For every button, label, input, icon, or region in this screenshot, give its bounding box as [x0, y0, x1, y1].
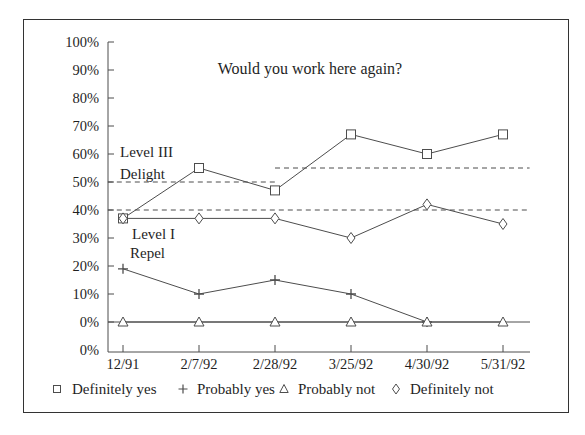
x-tick-label: 12/91: [106, 356, 139, 372]
x-tick-label: 5/31/92: [481, 356, 525, 372]
y-tick-label: 90%: [72, 62, 99, 78]
marker-definitely-not: [423, 199, 431, 210]
marker-definitely-yes: [347, 130, 356, 139]
square-marker-icon: [54, 386, 61, 393]
legend-label: Definitely yes: [72, 381, 157, 397]
annotation-line: Repel: [130, 245, 165, 261]
triangle-marker-icon: [280, 385, 288, 393]
y-tick-label: 10%: [72, 286, 99, 302]
y-tick-label: 60%: [72, 146, 99, 162]
marker-definitely-not: [347, 233, 355, 244]
y-axis-labels: 100% 90% 80% 70% 60% 50% 40% 30% 20% 10%…: [65, 34, 99, 358]
y-tick-label: 100%: [65, 34, 99, 50]
y-tick-label: 20%: [72, 258, 99, 274]
y-tick-label: 0%: [80, 342, 99, 358]
series-line-definitely-not: [123, 204, 503, 238]
plus-marker-icon: [179, 385, 188, 394]
marker-probably-yes: [118, 264, 128, 274]
marker-definitely-not: [499, 219, 507, 230]
annotation-line: Level III: [120, 144, 173, 160]
legend-label: Probably yes: [197, 381, 275, 397]
legend-label: Probably not: [298, 381, 376, 397]
legend: Definitely yes Probably yes Probably not…: [54, 381, 495, 397]
annotation-line: Delight: [120, 166, 166, 182]
legend-item-probably-not: Probably not: [280, 381, 376, 397]
marker-definitely-yes: [271, 186, 280, 195]
y-tick-label: 50%: [72, 174, 99, 190]
x-tick-label: 3/25/92: [329, 356, 373, 372]
survey-chart-page: Would you work here again? 100% 90% 80% …: [0, 0, 585, 435]
y-tick-label: 70%: [72, 118, 99, 134]
survey-line-chart: Would you work here again? 100% 90% 80% …: [0, 0, 585, 435]
y-tick-label: 30%: [72, 230, 99, 246]
series-line-definitely-yes: [123, 134, 503, 218]
x-axis-labels: 12/91 2/7/92 2/28/92 3/25/92 4/30/92 5/3…: [106, 356, 525, 372]
diamond-marker-icon: [393, 384, 400, 394]
x-tick-label: 2/28/92: [253, 356, 297, 372]
legend-item-definitely-not: Definitely not: [393, 381, 495, 397]
marker-definitely-yes: [499, 130, 508, 139]
legend-item-probably-yes: Probably yes: [179, 381, 276, 397]
marker-definitely-yes: [195, 164, 204, 173]
marker-definitely-not: [271, 213, 279, 224]
x-tick-label: 2/7/92: [180, 356, 217, 372]
legend-label: Definitely not: [410, 381, 495, 397]
annotation-line: Level I: [132, 226, 175, 242]
marker-probably-yes: [194, 289, 204, 299]
annotation-level-1-repel: Level I Repel: [130, 226, 175, 261]
legend-item-definitely-yes: Definitely yes: [54, 381, 157, 397]
plot-layer: [108, 42, 530, 352]
y-tick-label: 40%: [72, 202, 99, 218]
marker-definitely-yes: [423, 150, 432, 159]
x-tick-label: 4/30/92: [405, 356, 449, 372]
chart-title: Would you work here again?: [218, 60, 402, 78]
marker-probably-yes: [346, 289, 356, 299]
marker-probably-yes: [270, 275, 280, 285]
y-tick-label: 0%: [80, 314, 99, 330]
annotation-level-3-delight: Level III Delight: [120, 144, 173, 182]
marker-definitely-not: [195, 213, 203, 224]
y-tick-label: 80%: [72, 90, 99, 106]
